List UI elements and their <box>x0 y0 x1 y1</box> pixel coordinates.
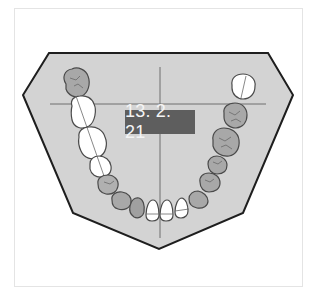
tooth-right-molar-3[interactable] <box>64 68 89 97</box>
tooth-right-lateral-incisor[interactable] <box>130 198 145 218</box>
tooth-left-premolar-1[interactable] <box>200 173 220 192</box>
date-label-box: 13. 2. 21 <box>125 110 195 134</box>
date-label: 13. 2. 21 <box>125 101 195 143</box>
tooth-right-molar-2[interactable] <box>71 96 95 128</box>
tooth-left-premolar-2[interactable] <box>208 156 227 174</box>
tooth-right-canine[interactable] <box>112 192 131 210</box>
tooth-left-molar-1[interactable] <box>213 128 239 156</box>
tooth-right-premolar-1[interactable] <box>98 175 118 194</box>
tooth-left-molar-2[interactable] <box>224 103 247 128</box>
tooth-left-molar-3[interactable] <box>232 74 255 99</box>
dental-arch-diagram <box>0 0 316 292</box>
